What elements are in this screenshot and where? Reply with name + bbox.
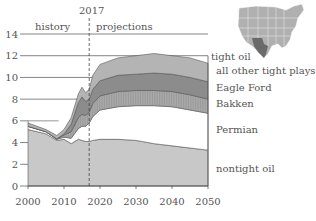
y-tick-label: 4 <box>12 137 18 148</box>
x-tick-label: 2010 <box>51 196 76 207</box>
stacked-areas <box>28 54 208 186</box>
x-tick-label: 2030 <box>123 196 148 207</box>
x-tick-label: 2000 <box>15 196 40 207</box>
legend-permian: Permian <box>216 124 258 135</box>
year-2017-label: 2017 <box>79 5 104 16</box>
projections-label: projections <box>96 21 153 32</box>
x-tick-label: 2020 <box>87 196 112 207</box>
y-tick-label: 2 <box>12 159 18 170</box>
legend-tight-oil: tight oil <box>211 51 251 62</box>
history-outline <box>28 121 59 123</box>
y-tick-label: 6 <box>12 115 18 126</box>
legend-nontight: nontight oil <box>216 163 275 174</box>
y-tick-label: 8 <box>12 94 18 105</box>
y-tick-label: 10 <box>5 72 18 83</box>
x-tick-label: 2040 <box>159 196 184 207</box>
legend-bakken: Bakken <box>216 98 254 109</box>
x-tick-label: 2050 <box>195 196 220 207</box>
y-tick-label: 0 <box>12 181 18 192</box>
y-tick-label: 12 <box>5 50 18 61</box>
y-tick-label: 14 <box>5 29 18 40</box>
legend-all-other: all other tight plays <box>216 65 316 76</box>
history-label: history <box>35 21 70 32</box>
legend-eagle-ford: Eagle Ford <box>216 82 272 93</box>
